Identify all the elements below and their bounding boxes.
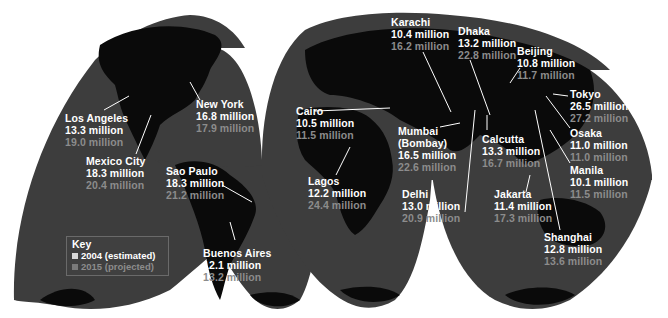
legend-label-2015: 2015 (projected): [81, 261, 154, 272]
city-name: New York: [196, 98, 254, 110]
city-name: Buenos Aires: [203, 247, 272, 259]
city-name: Dhaka: [458, 25, 516, 37]
city-label-mexico-city: Mexico City 18.3 million 20.4 million: [86, 155, 145, 191]
population-2004: 11.0 million: [570, 139, 628, 151]
city-label-buenos-aires: Buenos Aires 12.1 million 13.2 million: [203, 247, 272, 283]
city-name: Mumbai: [398, 125, 456, 137]
city-name: Mexico City: [86, 155, 145, 167]
population-2015: 27.2 million: [570, 112, 628, 124]
population-2004: 10.4 million: [391, 28, 449, 40]
city-label-osaka: Osaka 11.0 million 11.0 million: [570, 127, 628, 163]
population-2015: 16.7 million: [482, 157, 540, 169]
city-label-cairo: Cairo 10.5 million 11.5 million: [296, 105, 354, 141]
city-name: Osaka: [570, 127, 628, 139]
population-2004: 10.5 million: [296, 117, 354, 129]
legend-swatch-2015: [72, 264, 78, 270]
population-2004: 26.5 million: [570, 100, 628, 112]
population-2015: 16.2 million: [391, 40, 449, 52]
population-2015: 21.2 million: [166, 189, 224, 201]
population-2004: 12.2 million: [308, 187, 366, 199]
population-2004: 18.3 million: [166, 177, 224, 189]
population-2004: 11.4 million: [494, 200, 552, 212]
city-name: Tokyo: [570, 88, 628, 100]
population-2004: 13.2 million: [458, 37, 516, 49]
legend-label-2004: 2004 (estimated): [81, 250, 155, 261]
city-name: Sao Paulo: [166, 165, 224, 177]
city-name-alt: (Bombay): [398, 137, 456, 149]
population-2015: 11.5 million: [570, 188, 628, 200]
city-label-mumbai: Mumbai (Bombay) 16.5 million 22.6 millio…: [398, 125, 456, 173]
city-label-new-york: New York 16.8 million 17.9 million: [196, 98, 254, 134]
city-label-lagos: Lagos 12.2 million 24.4 million: [308, 175, 366, 211]
city-label-manila: Manila 10.1 million 11.5 million: [570, 164, 628, 200]
city-label-calcutta: Calcutta 13.3 million 16.7 million: [482, 133, 540, 169]
population-2015: 17.3 million: [494, 212, 552, 224]
population-2004: 18.3 million: [86, 167, 145, 179]
city-name: Los Angeles: [65, 112, 128, 124]
legend-swatch-2004: [72, 253, 78, 259]
city-name: Jakarta: [494, 188, 552, 200]
map-legend: Key 2004 (estimated) 2015 (projected): [66, 236, 169, 276]
population-2004: 16.5 million: [398, 149, 456, 161]
population-2004: 13.0 million: [402, 200, 460, 212]
population-2004: 16.8 million: [196, 110, 254, 122]
population-2015: 11.5 million: [296, 129, 354, 141]
population-2015: 13.2 million: [203, 271, 272, 283]
population-2015: 22.6 million: [398, 161, 456, 173]
population-2015: 13.6 million: [544, 255, 602, 267]
population-2004: 10.1 million: [570, 176, 628, 188]
city-name: Manila: [570, 164, 628, 176]
city-name: Shanghai: [544, 231, 602, 243]
population-2015: 19.0 million: [65, 136, 128, 148]
population-2004: 13.3 million: [482, 145, 540, 157]
city-label-tokyo: Tokyo 26.5 million 27.2 million: [570, 88, 628, 124]
population-2015: 24.4 million: [308, 199, 366, 211]
city-label-dhaka: Dhaka 13.2 million 22.8 million: [458, 25, 516, 61]
city-label-shanghai: Shanghai 12.8 million 13.6 million: [544, 231, 602, 267]
city-label-delhi: Delhi 13.0 million 20.9 million: [402, 188, 460, 224]
legend-title: Key: [72, 239, 163, 250]
city-label-los-angeles: Los Angeles 13.3 million 19.0 million: [65, 112, 128, 148]
legend-item-2004: 2004 (estimated): [72, 250, 163, 261]
population-2015: 11.7 million: [517, 69, 575, 81]
city-name: Lagos: [308, 175, 366, 187]
city-name: Karachi: [391, 16, 449, 28]
population-2004: 13.3 million: [65, 124, 128, 136]
city-label-sao-paulo: Sao Paulo 18.3 million 21.2 million: [166, 165, 224, 201]
population-2004: 10.8 million: [517, 57, 575, 69]
population-2015: 20.9 million: [402, 212, 460, 224]
legend-item-2015: 2015 (projected): [72, 261, 163, 272]
city-name: Beijing: [517, 45, 575, 57]
population-2004: 12.1 million: [203, 259, 272, 271]
city-label-karachi: Karachi 10.4 million 16.2 million: [391, 16, 449, 52]
population-2015: 22.8 million: [458, 49, 516, 61]
population-2015: 11.0 million: [570, 151, 628, 163]
population-2015: 17.9 million: [196, 122, 254, 134]
city-label-jakarta: Jakarta 11.4 million 17.3 million: [494, 188, 552, 224]
city-name: Calcutta: [482, 133, 540, 145]
city-label-beijing: Beijing 10.8 million 11.7 million: [517, 45, 575, 81]
population-2004: 12.8 million: [544, 243, 602, 255]
city-name: Cairo: [296, 105, 354, 117]
city-name: Delhi: [402, 188, 460, 200]
population-2015: 20.4 million: [86, 179, 145, 191]
